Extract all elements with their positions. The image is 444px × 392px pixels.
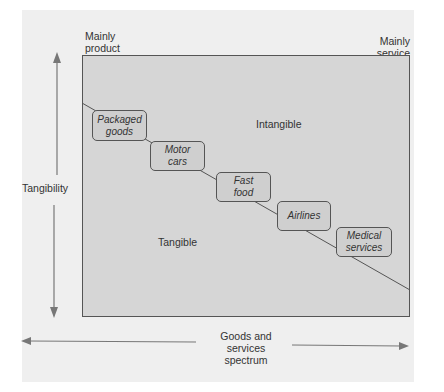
item-line: Medical (346, 230, 383, 242)
item-motor-cars: Motorcars (150, 141, 205, 171)
item-line: Fast (234, 175, 253, 187)
item-line: services (346, 242, 383, 254)
arrow-left-icon (21, 337, 31, 345)
item-line: food (234, 187, 253, 199)
item-fast-food: Fastfood (216, 172, 271, 202)
item-line: cars (165, 156, 191, 168)
arrow-down-icon (50, 307, 58, 318)
item-line: Packaged (97, 114, 141, 126)
axis-label-line2: services (204, 342, 288, 354)
goods-services-axis-label: Goods and services spectrum (204, 330, 288, 366)
arrow-right-icon (399, 342, 409, 350)
arrow-up-icon (53, 52, 61, 63)
tangible-label: Tangible (158, 236, 197, 248)
item-packaged-goods: Packagedgoods (92, 110, 147, 141)
item-line: Motor (165, 144, 191, 156)
tangibility-axis-label: Tangibility (22, 182, 68, 194)
item-line: goods (97, 126, 141, 138)
axis-label-line1: Goods and (204, 330, 288, 342)
intangible-label: Intangible (256, 118, 302, 130)
item-line: Airlines (288, 210, 321, 222)
item-airlines: Airlines (277, 201, 331, 231)
axis-label-line3: spectrum (204, 354, 288, 366)
item-medical-services: Medicalservices (336, 227, 392, 257)
